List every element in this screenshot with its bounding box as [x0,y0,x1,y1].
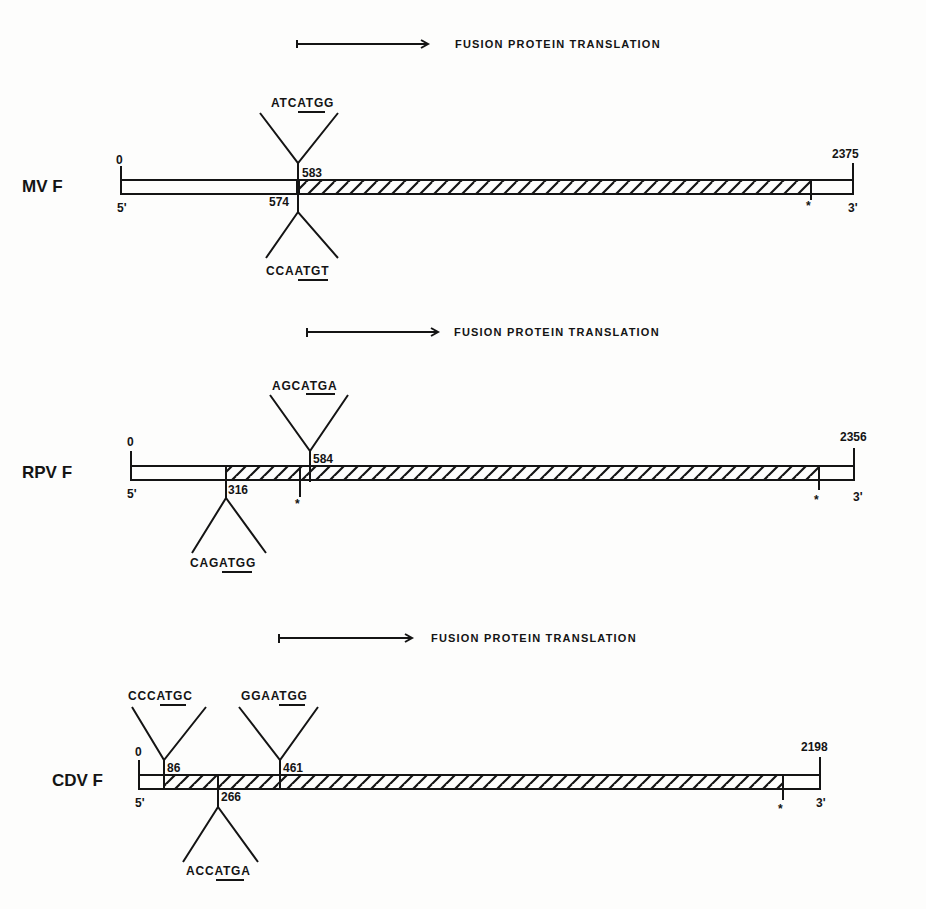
gene-name: MV F [22,177,63,196]
translation-label: FUSION PROTEIN TRANSLATION [455,38,661,50]
start-position: 0 [135,745,142,759]
site-position: 461 [283,761,303,775]
translation-label: FUSION PROTEIN TRANSLATION [454,326,660,338]
five-prime-label: 5' [127,487,137,501]
gene-name: RPV F [22,463,72,482]
five-prime-label: 5' [117,201,127,215]
start-site-461: 461 GGAATGG [239,689,318,775]
site-sequence: CAGATGG [190,556,256,570]
translation-arrow [297,40,428,48]
site-sequence: AGCATGA [272,379,337,393]
site-position: 316 [228,483,248,497]
site-position: 266 [221,790,241,804]
end-position: 2356 [840,430,867,444]
start-site-574: 574 CCAATGT [266,194,338,280]
start-site-584: 584 AGCATGA [270,379,348,466]
start-site-266: 266 ACCATGA [183,789,258,880]
site-sequence: ATCATGG [271,96,334,110]
site-position: 583 [302,166,322,180]
start-site-316: 316 CAGATGG [190,480,266,572]
site-sequence: CCCATGC [128,689,193,703]
three-prime-label: 3' [853,490,863,504]
gene-diagram: FUSION PROTEIN TRANSLATION MV F 0 5' 237… [0,0,926,909]
gene-bar [139,757,820,800]
start-position: 0 [127,435,134,449]
end-position: 2375 [832,147,859,161]
gene-mv-f: FUSION PROTEIN TRANSLATION MV F 0 5' 237… [22,38,859,280]
stop-codon-marker: * [295,497,300,511]
site-sequence: ACCATGA [186,864,251,878]
three-prime-label: 3' [848,201,858,215]
stop-codon-marker: * [806,199,811,213]
gene-rpv-f: FUSION PROTEIN TRANSLATION RPV F 0 5' 23… [22,326,867,572]
site-position: 574 [269,195,289,209]
gene-bar [121,163,853,200]
translation-arrow [307,328,438,337]
end-position: 2198 [801,740,828,754]
three-prime-label: 3' [816,796,826,810]
stop-codon-marker: * [814,493,819,507]
site-position: 584 [313,452,333,466]
stop-codon-marker: * [778,802,783,816]
translation-label: FUSION PROTEIN TRANSLATION [431,632,637,644]
gene-name: CDV F [52,771,103,790]
start-position: 0 [116,153,123,167]
translation-arrow [279,634,412,643]
site-sequence: GGAATGG [241,689,308,703]
start-site-583: 583 ATCATGG [260,96,338,180]
gene-cdv-f: FUSION PROTEIN TRANSLATION CDV F 0 5' 21… [52,632,828,880]
site-sequence: CCAATGT [266,264,329,278]
site-position: 86 [167,761,181,775]
five-prime-label: 5' [135,796,145,810]
